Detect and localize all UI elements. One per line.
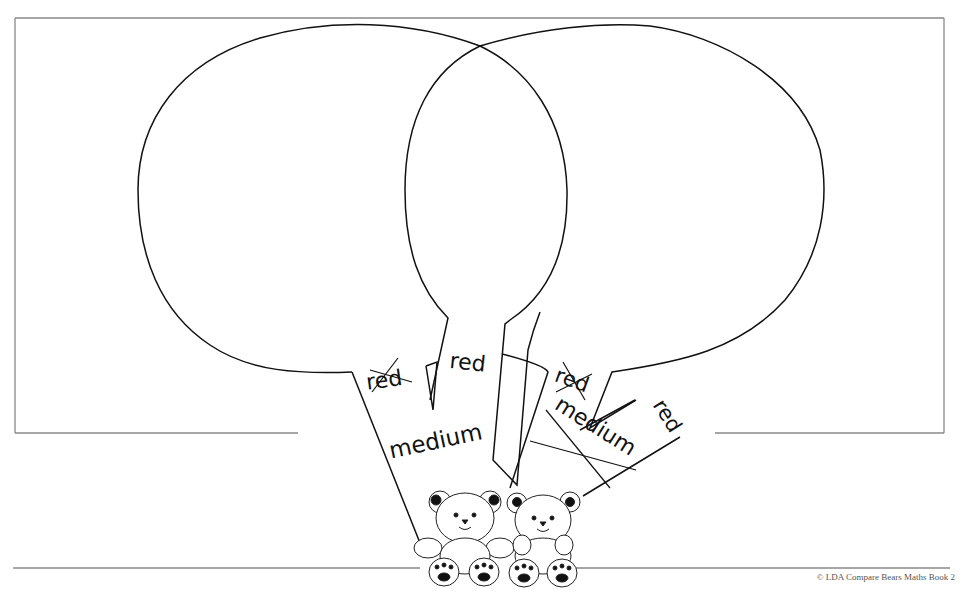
left-inner-notch (426, 362, 437, 410)
label-right-red: red (648, 395, 687, 437)
copyright-footer: © LDA Compare Bears Maths Book 2 (817, 572, 955, 582)
left-balloon-outline (138, 25, 567, 485)
label-left-medium: medium (387, 418, 485, 463)
bear-left (414, 491, 514, 586)
bear-right (507, 492, 580, 587)
label-right-red-crossed: red (552, 362, 593, 400)
frame (13, 18, 950, 568)
worksheet-canvas: red medium red red medium red (0, 0, 963, 598)
svg-text:red: red (552, 363, 593, 397)
right-balloon-inner-curve (405, 46, 480, 400)
label-middle-red: red (449, 348, 487, 377)
right-balloon-outline (480, 25, 824, 428)
label-left-red-crossed: red (364, 358, 412, 395)
left-balloon-string (352, 372, 422, 548)
